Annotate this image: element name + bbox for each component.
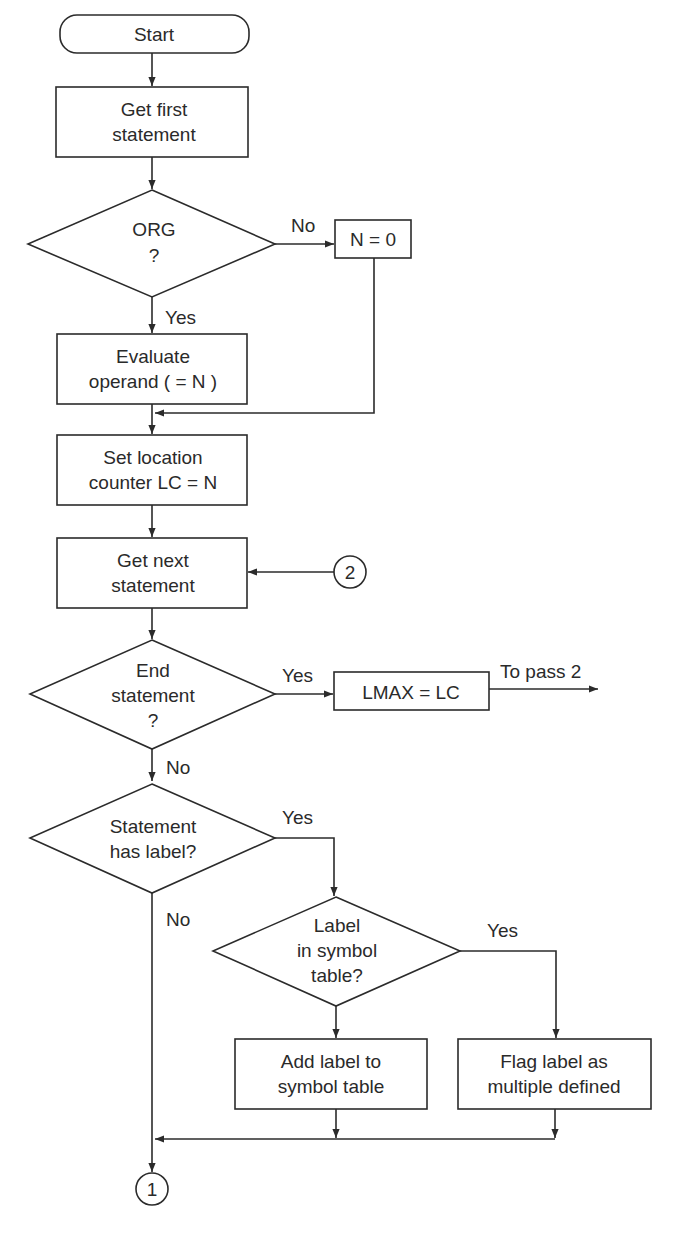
n-zero-box: N = 0	[335, 220, 411, 258]
evaluate-line1: Evaluate	[116, 346, 190, 367]
n-zero-label: N = 0	[350, 229, 396, 250]
end-line3: ?	[148, 710, 159, 731]
evaluate-operand-box: Evaluate operand ( = N )	[57, 334, 247, 404]
set-location-counter-box: Set location counter LC = N	[57, 435, 247, 505]
set-lc-line2: counter LC = N	[89, 472, 217, 493]
org-yes-label: Yes	[165, 307, 196, 328]
has-label-line1: Statement	[110, 816, 197, 837]
has-label-yes-label: Yes	[282, 807, 313, 828]
add-label-box: Add label to symbol table	[235, 1039, 427, 1109]
add-label-line1: Add label to	[281, 1051, 381, 1072]
flag-label-line1: Flag label as	[500, 1051, 608, 1072]
flowchart-canvas: Start Get first statement ORG ? No N = 0…	[0, 0, 676, 1237]
in-symtab-yes-label: Yes	[487, 920, 518, 941]
has-label-decision: Statement has label?	[30, 784, 275, 893]
in-symtab-line2: in symbol	[297, 940, 377, 961]
flag-label-line2: multiple defined	[487, 1076, 620, 1097]
start-label: Start	[134, 24, 175, 45]
org-no-label: No	[291, 215, 315, 236]
arrow-has-label-yes	[275, 838, 334, 896]
end-statement-decision: End statement ?	[30, 640, 275, 749]
connector-1-label: 1	[147, 1179, 158, 1200]
to-pass-2-label: To pass 2	[500, 661, 581, 682]
get-next-line1: Get next	[117, 550, 190, 571]
end-line2: statement	[111, 685, 195, 706]
has-label-no-label: No	[166, 909, 190, 930]
flag-label-box: Flag label as multiple defined	[458, 1039, 651, 1109]
org-decision: ORG ?	[28, 190, 275, 297]
end-line1: End	[136, 660, 170, 681]
end-no-label: No	[166, 757, 190, 778]
org-line2: ?	[149, 245, 160, 266]
add-label-line2: symbol table	[278, 1076, 385, 1097]
connector-2-label: 2	[345, 562, 356, 583]
get-first-statement-box: Get first statement	[56, 87, 248, 157]
get-first-line1: Get first	[121, 99, 188, 120]
connector-1: 1	[136, 1173, 168, 1205]
set-lc-line1: Set location	[103, 447, 202, 468]
evaluate-line2: operand ( = N )	[89, 371, 217, 392]
lmax-label: LMAX = LC	[362, 682, 460, 703]
in-symtab-line3: table?	[311, 965, 363, 986]
end-yes-label: Yes	[282, 665, 313, 686]
lmax-box: LMAX = LC	[334, 672, 489, 710]
connector-2: 2	[334, 556, 366, 588]
start-terminal: Start	[60, 15, 249, 53]
get-next-line2: statement	[111, 575, 195, 596]
in-symtab-line1: Label	[314, 915, 361, 936]
get-next-statement-box: Get next statement	[57, 538, 247, 608]
in-symbol-table-decision: Label in symbol table?	[213, 897, 460, 1006]
has-label-line2: has label?	[110, 841, 197, 862]
org-line1: ORG	[132, 219, 175, 240]
arrow-in-symtab-yes	[460, 951, 556, 1038]
get-first-line2: statement	[112, 124, 196, 145]
